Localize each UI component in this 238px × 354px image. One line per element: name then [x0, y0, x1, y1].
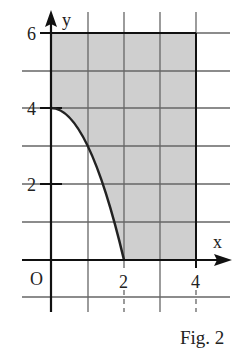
x-tick-4: 4: [191, 272, 200, 292]
y-axis-label: y: [62, 10, 71, 30]
figure-caption: Fig. 2: [180, 327, 224, 348]
x-axis-label: x: [213, 232, 222, 252]
y-tick-4: 4: [27, 99, 36, 119]
y-tick-6: 6: [27, 24, 36, 44]
graph: y x O 6 4 2 2 4 Fig. 2: [0, 0, 238, 354]
x-tick-2: 2: [119, 272, 128, 292]
y-tick-2: 2: [27, 175, 36, 195]
origin-label: O: [30, 269, 43, 289]
figure: y x O 6 4 2 2 4 Fig. 2: [0, 0, 238, 354]
